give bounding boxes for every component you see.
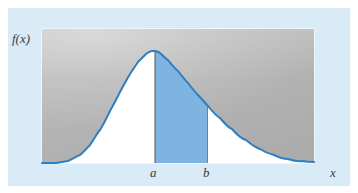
area-between-a-and-b (155, 51, 208, 163)
area-left-of-a (42, 51, 155, 163)
y-axis-label: f(x) (12, 32, 30, 45)
figure-root: f(x) a b x (0, 0, 358, 193)
area-right-of-b (208, 106, 314, 163)
lower-bound-label-a: a (150, 166, 157, 179)
upper-bound-label-b: b (203, 166, 210, 179)
x-axis-label: x (330, 166, 336, 179)
density-curve-plot (42, 29, 314, 163)
